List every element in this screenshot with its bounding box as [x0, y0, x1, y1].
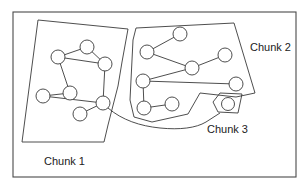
- node-m: [229, 77, 243, 91]
- node-c: [98, 57, 112, 71]
- node-n: [137, 101, 151, 115]
- node-k: [185, 61, 199, 75]
- node-o: [165, 97, 179, 111]
- node-h: [173, 27, 187, 41]
- chunk-1-label: Chunk 1: [44, 155, 85, 167]
- node-i: [140, 45, 154, 59]
- node-b: [51, 50, 65, 64]
- node-p: [222, 98, 235, 111]
- node-f: [96, 96, 110, 110]
- chunk-diagram: Chunk 1 Chunk 2 Chunk 3: [0, 0, 304, 184]
- node-a: [80, 40, 94, 54]
- chunk-3-label: Chunk 3: [207, 123, 248, 135]
- node-l: [136, 74, 150, 88]
- node-j: [218, 48, 232, 62]
- chunk-2-label: Chunk 2: [250, 41, 291, 53]
- node-g: [73, 107, 87, 121]
- node-d: [63, 86, 77, 100]
- node-e: [36, 89, 50, 103]
